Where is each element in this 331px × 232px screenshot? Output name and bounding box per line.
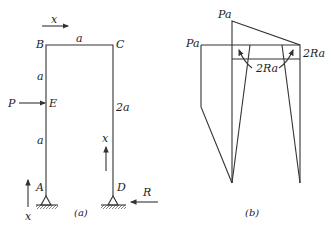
caption-a: (a) [74, 207, 88, 218]
frame-members [46, 45, 113, 196]
dim-EA-label: a [37, 134, 44, 147]
moment-left-column [201, 45, 232, 183]
caption-b: (b) [245, 207, 259, 218]
load-P-label: P [7, 97, 16, 110]
label-pa-top: Pa [217, 8, 231, 21]
x-label-top: x [51, 13, 58, 26]
node-C-label: C [116, 38, 125, 51]
x-label-left: x [25, 210, 32, 223]
node-B-label: B [35, 38, 44, 51]
node-A-label: A [35, 181, 44, 194]
label-2ra-center: 2Ra [255, 62, 278, 75]
load-R-label: R [142, 186, 151, 199]
label-2ra-right: 2Ra [302, 47, 325, 60]
moment-inner-right [282, 45, 300, 183]
dim-CD-label: 2a [115, 101, 130, 114]
moment-inner-left [232, 45, 250, 183]
support-A [36, 196, 58, 209]
label-pa-left: Pa [185, 37, 199, 50]
node-E-label: E [48, 97, 57, 110]
x-label-right: x [102, 132, 109, 145]
dim-BC-label: a [76, 32, 83, 45]
diagram-canvas: x B C E A D a a a 2a P R x x [0, 0, 331, 232]
support-D [101, 196, 126, 209]
frame-diagram-a: x B C E A D a a a 2a P R x x [7, 13, 158, 223]
dim-BE-label: a [37, 70, 44, 83]
moment-diagram-b: Pa Pa 2Ra 2Ra (b) [185, 8, 325, 218]
node-D-label: D [116, 181, 126, 194]
